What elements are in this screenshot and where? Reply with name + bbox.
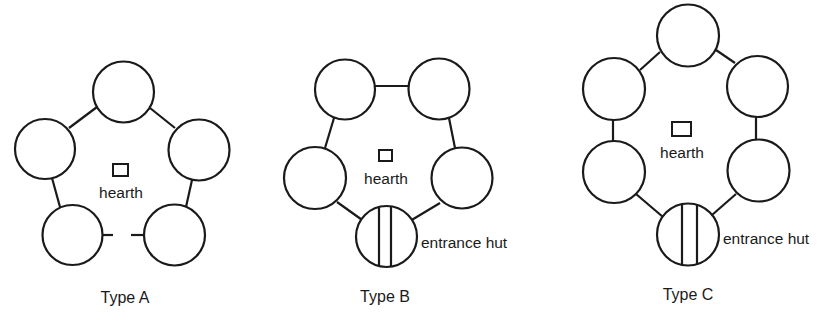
hut-circle	[315, 60, 375, 120]
hut-circle	[93, 62, 154, 123]
wall-segment	[186, 180, 192, 207]
wall-segment	[52, 178, 60, 207]
hut-circle	[169, 120, 230, 181]
layout-type-a: hearth Type A	[15, 62, 230, 307]
hut-layout-diagram: hearth Type A hearth entrance hut Type B…	[0, 0, 838, 327]
layout-type-c: hearth entrance hut Type C	[583, 5, 810, 304]
wall-segment	[325, 118, 334, 148]
type-caption: Type A	[101, 289, 150, 306]
entrance-hut	[356, 206, 417, 267]
hut-circle	[43, 205, 103, 265]
entrance-hut-label: entrance hut	[723, 230, 810, 247]
wall-segment	[69, 107, 97, 128]
entrance-hut-circle	[657, 204, 719, 266]
hearth-icon	[113, 164, 128, 176]
type-caption: Type C	[663, 286, 714, 303]
hut-circle	[432, 148, 493, 209]
wall-segment	[449, 118, 455, 148]
type-caption: Type B	[360, 288, 410, 305]
hut-circles	[583, 5, 790, 204]
hearth-icon	[672, 122, 691, 136]
layout-type-b: hearth entrance hut Type B	[284, 59, 508, 306]
hut-circle	[144, 205, 205, 266]
hearth-label: hearth	[99, 184, 143, 201]
wall-segment	[410, 203, 440, 221]
wall-segment	[716, 50, 735, 63]
entrance-hut	[657, 204, 719, 266]
hut-circle	[728, 140, 790, 202]
entrance-hut-circle	[356, 206, 417, 267]
hut-circle	[15, 119, 75, 179]
hut-circle	[284, 147, 346, 209]
hut-circle	[583, 141, 645, 203]
hearth-label: hearth	[364, 170, 408, 187]
entrance-hut-label: entrance hut	[421, 234, 508, 251]
hut-circle	[657, 5, 719, 67]
wall-segment	[150, 108, 175, 128]
hut-circle	[583, 58, 645, 120]
hut-circle	[409, 59, 470, 120]
hearth-label: hearth	[660, 144, 704, 161]
wall-segment	[636, 194, 663, 217]
wall-segment	[712, 194, 736, 215]
hut-circle	[727, 56, 788, 117]
wall-segment	[640, 52, 660, 70]
hearth-icon	[379, 150, 392, 161]
